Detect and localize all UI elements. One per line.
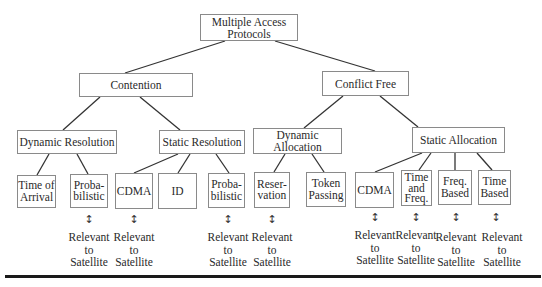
double-arrow-icon: ↕ [83, 214, 95, 226]
double-arrow-icon: ↕ [222, 214, 234, 226]
double-arrow-icon: ↕ [266, 214, 278, 226]
leaf-reservation: Reser- vation [254, 172, 290, 208]
double-arrow-icon: ↕ [490, 212, 502, 224]
leaf-token-passing: Token Passing [306, 172, 346, 207]
leaf-probabilistic-dynamic: Proba- bilistic [70, 174, 108, 208]
leaf-cdma-static-allocation: CDMA [355, 172, 394, 208]
node-static-resolution: Static Resolution [159, 130, 245, 154]
node-dynamic-resolution: Dynamic Resolution [17, 130, 117, 154]
protocol-tree-diagram: Multiple Access Protocols Contention Con… [0, 0, 542, 287]
leaf-time-and-freq: Time and Freq. [401, 170, 432, 206]
leaf-freq-based: Freq. Based [438, 170, 472, 205]
node-static-allocation: Static Allocation [412, 127, 505, 153]
node-contention: Contention [79, 73, 193, 97]
relevant-to-satellite-note: Relevant to Satellite [104, 231, 164, 269]
leaf-cdma-static-resolution: CDMA [115, 173, 153, 209]
relevant-to-satellite-note: Relevant to Satellite [242, 231, 302, 269]
leaf-id: ID [158, 173, 197, 209]
double-arrow-icon: ↕ [410, 212, 422, 224]
leaf-time-based: Time Based [478, 170, 511, 205]
leaf-probabilistic-static: Proba- bilistic [208, 173, 245, 208]
leaf-time-of-arrival: Time of Arrival [17, 175, 56, 208]
double-arrow-icon: ↕ [450, 212, 462, 224]
double-arrow-icon: ↕ [128, 214, 140, 226]
double-arrow-icon: ↕ [369, 212, 381, 224]
node-conflict-free: Conflict Free [322, 71, 409, 96]
node-dynamic-allocation: Dynamic Allocation [253, 128, 342, 154]
relevant-to-satellite-note: Relevant to Satellite [472, 231, 532, 269]
node-multiple-access-protocols: Multiple Access Protocols [200, 14, 298, 41]
bottom-rule-divider [5, 275, 541, 278]
